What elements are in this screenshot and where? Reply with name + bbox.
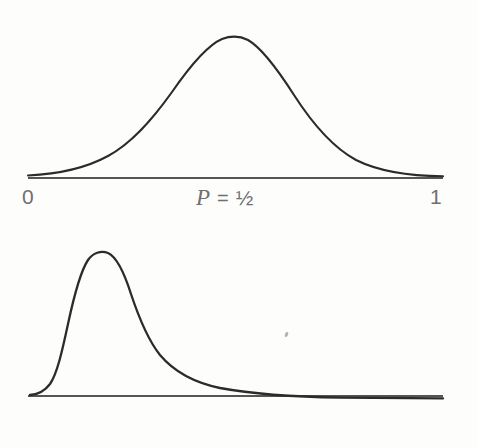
figure-root: 0 1 P=½ 0 1 P≈0 <box>0 0 477 448</box>
probability-value-top: ½ <box>236 186 254 209</box>
x-tick-label-left-top: 0 <box>22 186 34 207</box>
symmetric-curve <box>28 37 443 176</box>
skewed-curve <box>30 252 443 399</box>
chart-panel-bottom: 0 1 P≈0 <box>0 224 477 448</box>
probability-label-top: P=½ <box>196 186 253 209</box>
chart-panel-top: 0 1 P=½ <box>0 0 477 224</box>
x-tick-label-right-top: 1 <box>430 186 442 207</box>
skewed-distribution-plot <box>0 224 477 448</box>
probability-relation-top: = <box>217 187 236 209</box>
probability-symbol-top: P <box>196 185 217 210</box>
